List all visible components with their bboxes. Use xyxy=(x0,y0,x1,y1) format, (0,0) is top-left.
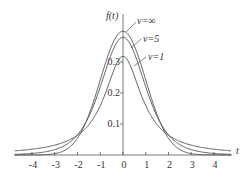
x-tick-label: -4 xyxy=(29,159,37,170)
x-tick-label: 3 xyxy=(190,159,195,170)
x-tick-label: 1 xyxy=(144,159,149,170)
x-tick-label: 4 xyxy=(213,159,218,170)
t-distribution-chart: -4-3-2-1012340.10.20.3f(t)tν=∞ν=5ν=1 xyxy=(0,0,252,188)
x-tick-label: -1 xyxy=(97,159,105,170)
x-tick-label: -3 xyxy=(52,159,60,170)
series-label-0: ν=∞ xyxy=(137,15,155,26)
y-tick-label: 0.2 xyxy=(108,87,121,98)
y-axis-label: f(t) xyxy=(106,10,119,22)
x-axis-label: t xyxy=(236,145,239,156)
annotation-leader xyxy=(126,22,136,32)
x-tick-label: -2 xyxy=(74,159,82,170)
y-tick-label: 0.1 xyxy=(108,118,121,129)
series-label-1: ν=5 xyxy=(143,33,159,44)
x-tick-label: 0 xyxy=(122,159,127,170)
series-label-2: ν=1 xyxy=(148,51,164,62)
annotation-leader xyxy=(131,39,141,48)
x-tick-label: 2 xyxy=(167,159,172,170)
